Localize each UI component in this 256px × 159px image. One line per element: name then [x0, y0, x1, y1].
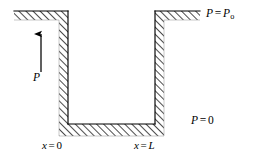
pressure-top-label: P=Po	[206, 8, 234, 21]
pressure-bottom-equals: =	[198, 114, 208, 126]
x-left-equals: =	[47, 139, 56, 151]
channel-outline	[14, 11, 200, 124]
x-left-value: 0	[57, 139, 63, 151]
solid-material-region	[14, 11, 200, 136]
hatched-solid-body	[14, 11, 200, 136]
x-right-value: L	[149, 139, 155, 151]
outer-boundary-faint	[14, 20, 200, 136]
x-left-boundary-label: x=0	[42, 140, 62, 151]
pressure-bottom-value: 0	[208, 114, 214, 126]
channel-cross-section-figure: P=Po P=0 x=0 x=L P	[0, 0, 256, 159]
arrow-pressure-label: P	[33, 72, 40, 84]
pressure-top-value-subscript: o	[230, 12, 234, 21]
x-right-boundary-label: x=L	[134, 140, 155, 151]
pressure-top-equals: =	[213, 7, 223, 19]
pressure-bottom-label: P=0	[191, 115, 214, 127]
x-right-equals: =	[139, 139, 148, 151]
